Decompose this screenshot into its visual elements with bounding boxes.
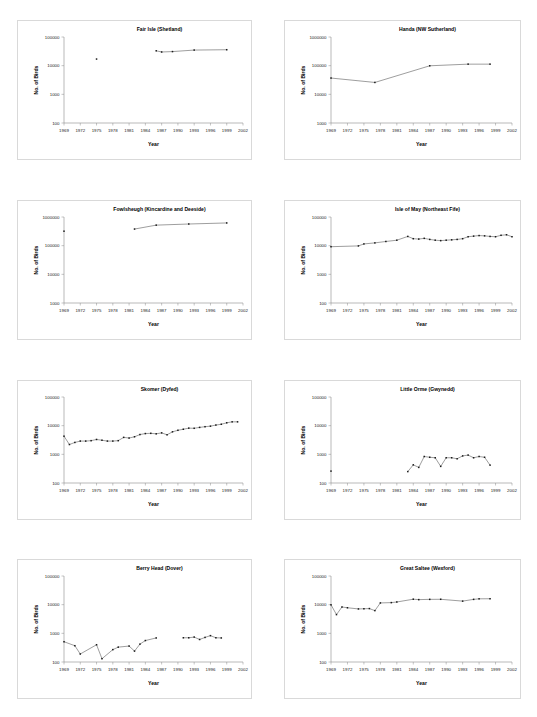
data-point xyxy=(155,433,157,435)
chart-panel: Handa (NW Sutherland)1000100001000001000… xyxy=(284,20,521,160)
data-point xyxy=(434,239,436,241)
chart-cell: Fowlsheugh (Kincardine and Deeside)10001… xyxy=(0,180,268,360)
data-point xyxy=(128,437,130,439)
data-point xyxy=(155,224,157,226)
x-tick-label: 1993 xyxy=(189,667,199,672)
x-tick-label: 1987 xyxy=(156,488,166,493)
data-point xyxy=(204,636,206,638)
x-tick-label: 1990 xyxy=(441,667,451,672)
y-tick-label: 100 xyxy=(319,301,327,306)
chart-svg: Little Orme (Gwynedd)1001000100001000001… xyxy=(285,381,520,519)
x-tick-label: 1990 xyxy=(173,308,183,313)
x-tick-label: 1999 xyxy=(491,128,501,133)
chart-title: Fowlsheugh (Kincardine and Deeside) xyxy=(113,206,206,212)
x-tick-label: 1984 xyxy=(408,488,418,493)
x-tick-label: 1993 xyxy=(458,667,468,672)
chart-cell: Handa (NW Sutherland)1000100001000001000… xyxy=(268,0,537,180)
data-point xyxy=(347,607,349,609)
data-point xyxy=(63,435,65,437)
data-point xyxy=(133,650,135,652)
x-tick-label: 1999 xyxy=(221,128,231,133)
data-point xyxy=(478,598,480,600)
x-tick-label: 2002 xyxy=(238,667,248,672)
x-tick-label: 1978 xyxy=(375,128,385,133)
data-point xyxy=(101,657,103,659)
y-tick-label: 1000000 xyxy=(42,215,60,220)
chart-panel: Skomer (Dyfed)10010001000010000019691972… xyxy=(17,380,252,520)
series-line xyxy=(64,637,156,658)
y-tick-label: 10000 xyxy=(314,602,327,607)
x-axis-title: Year xyxy=(416,501,427,507)
data-point xyxy=(391,601,393,603)
x-tick-label: 1993 xyxy=(458,488,468,493)
series-line xyxy=(331,64,490,82)
x-tick-label: 1978 xyxy=(375,667,385,672)
data-point xyxy=(90,440,92,442)
data-point xyxy=(74,442,76,444)
y-axis-title: No. of Birds xyxy=(33,65,39,94)
x-tick-label: 1978 xyxy=(107,488,117,493)
y-axis-title: No. of Birds xyxy=(300,65,306,94)
y-tick-label: 1000 xyxy=(317,121,327,126)
x-tick-label: 1993 xyxy=(189,308,199,313)
x-tick-label: 1999 xyxy=(491,488,501,493)
data-point xyxy=(413,464,415,466)
data-point xyxy=(489,597,491,599)
x-tick-label: 2002 xyxy=(238,128,248,133)
x-tick-label: 1972 xyxy=(75,667,85,672)
data-point xyxy=(440,240,442,242)
data-point xyxy=(445,239,447,241)
chart-svg: Fowlsheugh (Kincardine and Deeside)10001… xyxy=(18,201,251,339)
x-tick-label: 1984 xyxy=(140,128,150,133)
y-tick-label: 100 xyxy=(52,121,60,126)
data-point xyxy=(198,638,200,640)
data-point xyxy=(171,51,173,53)
chart-cell: Fair Isle (Shetland)10010001000010000019… xyxy=(0,0,268,180)
data-point xyxy=(369,607,371,609)
x-tick-label: 1972 xyxy=(343,128,353,133)
x-tick-label: 2002 xyxy=(507,488,517,493)
y-tick-label: 1000 xyxy=(49,92,59,97)
x-tick-label: 1987 xyxy=(425,488,435,493)
data-point xyxy=(63,640,65,642)
data-point xyxy=(106,440,108,442)
x-tick-label: 1975 xyxy=(91,128,101,133)
data-point xyxy=(423,238,425,240)
x-tick-label: 1969 xyxy=(59,128,69,133)
data-point xyxy=(74,644,76,646)
x-tick-label: 1984 xyxy=(140,488,150,493)
x-tick-label: 1975 xyxy=(91,667,101,672)
data-point xyxy=(484,235,486,237)
y-axis-title: No. of Birds xyxy=(300,425,306,454)
x-tick-label: 1972 xyxy=(343,667,353,672)
x-tick-label: 1987 xyxy=(425,128,435,133)
data-point xyxy=(467,454,469,456)
data-point xyxy=(188,427,190,429)
chart-title: Isle of May (Northeast Fife) xyxy=(395,206,460,212)
data-point xyxy=(358,608,360,610)
data-point xyxy=(489,236,491,238)
data-point xyxy=(101,440,103,442)
data-point xyxy=(155,637,157,639)
x-tick-label: 1996 xyxy=(205,308,215,313)
chart-grid: Fair Isle (Shetland)10010001000010000019… xyxy=(0,0,537,717)
chart-svg: Handa (NW Sutherland)1000100001000001000… xyxy=(285,21,520,159)
x-tick-label: 1975 xyxy=(91,308,101,313)
x-tick-label: 1975 xyxy=(359,308,369,313)
y-axis-title: No. of Birds xyxy=(300,245,306,274)
x-tick-label: 1975 xyxy=(359,667,369,672)
x-tick-label: 1969 xyxy=(59,308,69,313)
data-point xyxy=(385,241,387,243)
data-point xyxy=(209,634,211,636)
data-point xyxy=(456,458,458,460)
x-tick-label: 1993 xyxy=(458,128,468,133)
chart-cell: Skomer (Dyfed)10010001000010000019691972… xyxy=(0,360,268,540)
data-point xyxy=(506,234,508,236)
x-tick-label: 1981 xyxy=(124,667,134,672)
x-tick-label: 1999 xyxy=(491,667,501,672)
y-axis-title: No. of Birds xyxy=(33,245,39,274)
x-tick-label: 1990 xyxy=(173,128,183,133)
x-tick-label: 1978 xyxy=(107,667,117,672)
x-tick-label: 2002 xyxy=(507,308,517,313)
data-point xyxy=(236,421,238,423)
